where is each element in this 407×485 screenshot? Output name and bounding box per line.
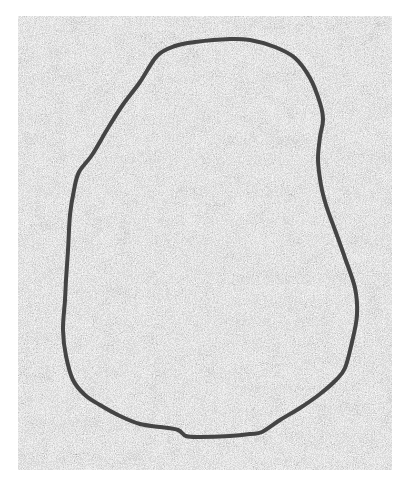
noise-image-with-contour — [0, 0, 407, 485]
noise-texture — [18, 16, 392, 470]
